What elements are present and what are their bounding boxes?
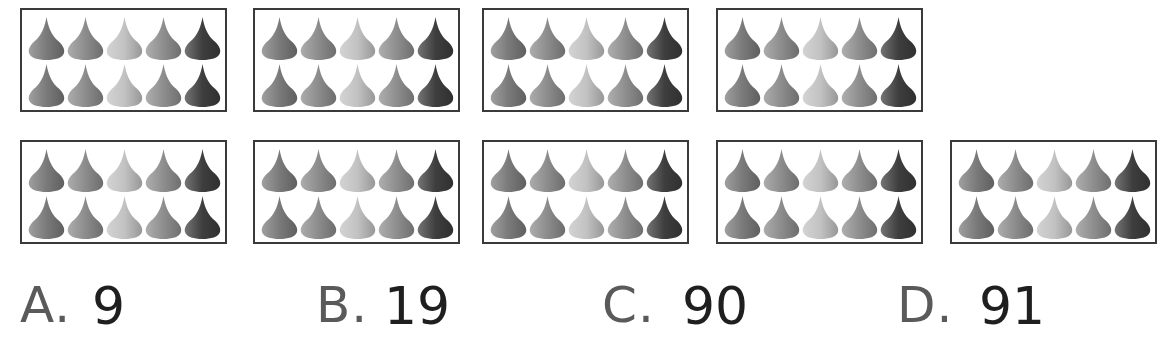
drop-icon: [299, 146, 338, 193]
drop-icon: [762, 146, 801, 193]
drop-icon: [528, 146, 567, 193]
drop-grid: [27, 146, 222, 240]
drop-box: [253, 140, 460, 244]
drop-box: [716, 140, 923, 244]
drop-grid: [27, 14, 222, 108]
drop-icon: [377, 61, 416, 108]
drop-box: [253, 8, 460, 112]
drop-icon: [27, 193, 66, 240]
drop-icon: [762, 61, 801, 108]
option-b[interactable]: B. 19: [316, 276, 368, 336]
drop-grid: [489, 146, 684, 240]
drop-box: [20, 140, 227, 244]
drop-icon: [260, 193, 299, 240]
drop-icon: [144, 146, 183, 193]
drop-icon: [1074, 193, 1113, 240]
drop-icon: [957, 146, 996, 193]
drop-icon: [762, 193, 801, 240]
drop-icon: [606, 146, 645, 193]
drop-icon: [1113, 146, 1152, 193]
drop-icon: [338, 146, 377, 193]
option-letter: C.: [602, 276, 655, 334]
drop-icon: [723, 61, 762, 108]
drop-box: [482, 140, 689, 244]
drop-grid: [260, 146, 455, 240]
drop-icon: [606, 61, 645, 108]
drop-icon: [801, 193, 840, 240]
option-c[interactable]: C. 90: [602, 276, 655, 336]
drop-icon: [299, 14, 338, 61]
drop-icon: [183, 61, 222, 108]
drop-grid: [957, 146, 1152, 240]
drop-icon: [801, 61, 840, 108]
drop-icon: [377, 193, 416, 240]
drop-grid: [723, 146, 918, 240]
drop-icon: [338, 193, 377, 240]
drop-box: [716, 8, 923, 112]
drop-icon: [27, 14, 66, 61]
drop-icon: [105, 193, 144, 240]
drop-icon: [879, 14, 918, 61]
drop-icon: [416, 146, 455, 193]
drop-icon: [840, 61, 879, 108]
drop-icon: [416, 61, 455, 108]
drop-icon: [260, 14, 299, 61]
option-value: 9: [92, 276, 125, 336]
drop-icon: [606, 14, 645, 61]
drop-box: [482, 8, 689, 112]
drop-icon: [489, 193, 528, 240]
drop-icon: [416, 193, 455, 240]
drop-icon: [1074, 146, 1113, 193]
option-letter: D.: [897, 276, 953, 334]
drop-icon: [567, 14, 606, 61]
drop-icon: [645, 146, 684, 193]
drop-icon: [840, 14, 879, 61]
drop-icon: [489, 61, 528, 108]
drop-icon: [338, 61, 377, 108]
drop-grid: [260, 14, 455, 108]
drop-icon: [879, 146, 918, 193]
option-d[interactable]: D. 91: [897, 276, 953, 336]
drop-icon: [105, 14, 144, 61]
drop-icon: [377, 146, 416, 193]
drop-icon: [377, 14, 416, 61]
drop-icon: [66, 14, 105, 61]
drop-icon: [1035, 146, 1074, 193]
drop-icon: [27, 61, 66, 108]
drop-icon: [66, 146, 105, 193]
drop-icon: [260, 146, 299, 193]
drop-icon: [27, 146, 66, 193]
drop-icon: [567, 146, 606, 193]
drop-icon: [528, 193, 567, 240]
drop-icon: [1035, 193, 1074, 240]
drop-icon: [606, 193, 645, 240]
drop-icon: [183, 193, 222, 240]
drop-icon: [879, 61, 918, 108]
drop-grid: [723, 14, 918, 108]
drop-box: [950, 140, 1157, 244]
drop-icon: [996, 146, 1035, 193]
drop-icon: [528, 61, 567, 108]
option-value: 19: [384, 276, 450, 336]
drop-icon: [183, 146, 222, 193]
drop-icon: [801, 146, 840, 193]
drop-icon: [567, 61, 606, 108]
drop-icon: [144, 61, 183, 108]
option-letter: A.: [20, 276, 71, 334]
drop-icon: [416, 14, 455, 61]
drop-icon: [66, 61, 105, 108]
drop-icon: [528, 14, 567, 61]
option-value: 90: [682, 276, 748, 336]
drop-icon: [645, 193, 684, 240]
drop-icon: [840, 146, 879, 193]
drop-grid: [489, 14, 684, 108]
drop-icon: [299, 193, 338, 240]
drop-icon: [840, 193, 879, 240]
drop-icon: [723, 146, 762, 193]
drop-icon: [645, 14, 684, 61]
drop-icon: [996, 193, 1035, 240]
drop-icon: [723, 14, 762, 61]
drop-icon: [489, 14, 528, 61]
drop-icon: [762, 14, 801, 61]
option-a[interactable]: A. 9: [20, 276, 71, 336]
